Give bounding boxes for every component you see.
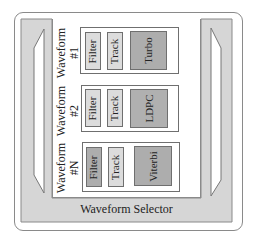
waveform-1-label: Waveform #1 — [53, 23, 83, 83]
waveform-n-label-line2: #N — [68, 161, 81, 176]
block-label: Filter — [89, 155, 100, 179]
block-label: Turbo — [143, 37, 154, 64]
waveform-2-ldpc-block: LDPC — [130, 89, 168, 128]
waveform-2-label: Waveform #2 — [53, 81, 83, 141]
waveform-n-track-block: Track — [108, 147, 124, 187]
waveform-selector-label: Waveform Selector — [52, 201, 201, 217]
waveform-2-label-line2: #2 — [68, 105, 81, 117]
waveform-2-track-block: Track — [107, 89, 123, 127]
block-label: Track — [110, 95, 121, 120]
waveform-n-label: Waveform #N — [53, 138, 83, 198]
block-label: Filter — [88, 96, 99, 120]
waveform-2-filter-block: Filter — [85, 89, 101, 127]
waveform-n-viterbi-block: Viterbi — [134, 146, 172, 186]
waveform-1-turbo-block: Turbo — [130, 31, 167, 70]
waveform-1-track-block: Track — [107, 32, 123, 70]
left-switch-arrow-icon — [34, 29, 44, 193]
block-label: Track — [110, 38, 121, 63]
right-switch-arrow-icon — [211, 28, 221, 196]
waveform-1-filter-block: Filter — [85, 32, 101, 70]
block-label: LDPC — [144, 94, 155, 122]
block-label: Filter — [88, 39, 99, 63]
block-label: Track — [111, 154, 122, 179]
waveform-n-filter-block: Filter — [86, 147, 102, 187]
block-label: Viterbi — [148, 151, 159, 182]
